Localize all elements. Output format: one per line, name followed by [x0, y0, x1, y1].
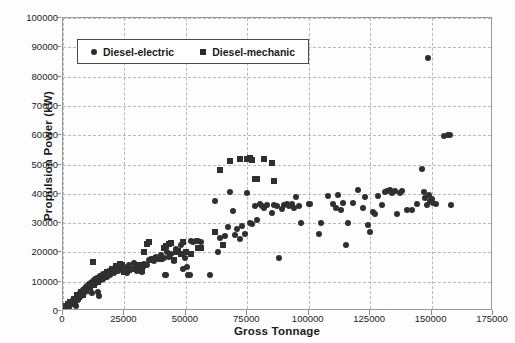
- legend-entry-circle[interactable]: Diesel-electric: [91, 46, 174, 58]
- data-point-square: [217, 167, 223, 173]
- x-tick-mark: [246, 310, 247, 315]
- y-tick-label: 60000: [12, 129, 58, 140]
- x-tick-mark: [62, 310, 63, 315]
- data-point-circle: [296, 203, 302, 209]
- data-point-square: [188, 251, 194, 257]
- data-point-circle: [293, 194, 299, 200]
- data-point-circle: [419, 166, 425, 172]
- gridline-vertical: [370, 18, 371, 309]
- y-tick-label: 0: [12, 305, 58, 316]
- data-point-square: [180, 239, 186, 245]
- data-point-circle: [355, 187, 361, 193]
- data-point-circle: [343, 242, 349, 248]
- data-point-circle: [198, 239, 204, 245]
- data-point-circle: [448, 202, 454, 208]
- legend-entry-square[interactable]: Diesel-mechanic: [200, 46, 295, 58]
- y-tick-mark: [56, 193, 61, 194]
- gridline-horizontal: [63, 282, 491, 283]
- data-point-square: [139, 268, 145, 274]
- data-point-circle: [360, 205, 366, 211]
- data-point-circle: [244, 190, 250, 196]
- y-tick-label: 40000: [12, 187, 58, 198]
- data-point-circle: [230, 208, 236, 214]
- y-tick-label: 70000: [12, 99, 58, 110]
- data-point-circle: [215, 249, 221, 255]
- data-point-circle: [242, 231, 248, 237]
- gridline-horizontal: [63, 135, 491, 136]
- data-point-circle: [433, 201, 439, 207]
- data-point-circle: [144, 262, 150, 268]
- gridline-vertical: [432, 18, 433, 309]
- data-point-circle: [414, 201, 420, 207]
- gridline-vertical: [63, 18, 64, 309]
- data-point-circle: [298, 220, 304, 226]
- data-point-circle: [372, 211, 378, 217]
- data-point-circle: [239, 223, 245, 229]
- y-tick-mark: [56, 134, 61, 135]
- data-point-circle: [338, 207, 344, 213]
- data-point-square: [269, 160, 275, 166]
- y-tick-mark: [56, 46, 61, 47]
- x-tick-mark: [492, 310, 493, 315]
- gridline-horizontal: [63, 223, 491, 224]
- data-point-square: [249, 157, 255, 163]
- chart-legend: Diesel-electricDiesel-mechanic: [77, 39, 309, 64]
- data-point-circle: [212, 198, 218, 204]
- x-axis-title: Gross Tonnage: [62, 325, 492, 337]
- legend-label: Diesel-electric: [103, 46, 174, 58]
- y-tick-mark: [56, 105, 61, 106]
- x-tick-mark: [369, 310, 370, 315]
- data-point-circle: [184, 264, 190, 270]
- data-point-square: [271, 178, 277, 184]
- data-point-circle: [447, 132, 453, 138]
- data-point-circle: [325, 193, 331, 199]
- y-tick-mark: [56, 251, 61, 252]
- data-point-circle: [367, 229, 373, 235]
- data-point-circle: [335, 192, 341, 198]
- y-tick-label: 50000: [12, 158, 58, 169]
- data-point-circle: [187, 272, 193, 278]
- data-point-square: [261, 156, 267, 162]
- data-point-square: [220, 242, 226, 248]
- data-point-circle: [276, 255, 282, 261]
- data-point-circle: [340, 200, 346, 206]
- data-point-square: [158, 256, 164, 262]
- data-point-square: [227, 158, 233, 164]
- data-point-circle: [264, 202, 270, 208]
- data-point-square: [146, 239, 152, 245]
- x-tick-mark: [123, 310, 124, 315]
- data-point-circle: [425, 55, 431, 61]
- data-point-square: [198, 245, 204, 251]
- y-tick-label: 80000: [12, 70, 58, 81]
- y-tick-mark: [56, 281, 61, 282]
- y-tick-label: 30000: [12, 217, 58, 228]
- data-point-circle: [365, 222, 371, 228]
- y-tick-label: 20000: [12, 246, 58, 257]
- data-point-circle: [375, 193, 381, 199]
- data-point-circle: [362, 194, 368, 200]
- data-point-circle: [225, 224, 231, 230]
- data-point-circle: [350, 200, 356, 206]
- data-point-circle: [409, 207, 415, 213]
- gridline-horizontal: [63, 77, 491, 78]
- y-tick-mark: [56, 310, 61, 311]
- data-point-circle: [399, 188, 405, 194]
- data-point-square: [237, 156, 243, 162]
- y-tick-label: 10000: [12, 275, 58, 286]
- y-tick-mark: [56, 164, 61, 165]
- data-point-square: [119, 262, 125, 268]
- data-point-circle: [254, 217, 260, 223]
- data-point-circle: [316, 231, 322, 237]
- y-tick-label: 100000: [12, 12, 58, 23]
- y-tick-mark: [56, 17, 61, 18]
- x-tick-mark: [185, 310, 186, 315]
- data-point-circle: [207, 272, 213, 278]
- y-tick-mark: [56, 76, 61, 77]
- scatter-chart: Propulsion Power (kW) 010000200003000040…: [0, 0, 515, 343]
- gridline-horizontal: [63, 252, 491, 253]
- data-point-square: [90, 259, 96, 265]
- data-point-circle: [163, 272, 169, 278]
- legend-label: Diesel-mechanic: [212, 46, 295, 58]
- data-point-circle: [269, 210, 275, 216]
- data-point-square: [168, 240, 174, 246]
